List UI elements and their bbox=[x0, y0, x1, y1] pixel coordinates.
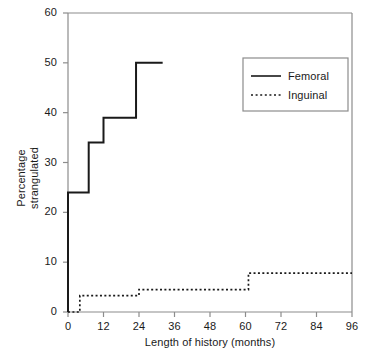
x-tick-label: 36 bbox=[163, 320, 187, 332]
series-line-inguinal bbox=[68, 273, 352, 312]
x-axis-title: Length of history (months) bbox=[68, 336, 352, 348]
y-axis-title: Percentage strangulated bbox=[10, 118, 44, 238]
legend-box bbox=[243, 58, 348, 111]
series-line-femoral bbox=[68, 63, 163, 312]
y-tick-label: 40 bbox=[35, 106, 57, 118]
x-tick-label: 96 bbox=[340, 320, 364, 332]
x-tick-label: 60 bbox=[234, 320, 258, 332]
y-tick-label: 30 bbox=[35, 156, 57, 168]
y-tick-label: 0 bbox=[35, 305, 57, 317]
y-tick-label: 20 bbox=[35, 205, 57, 217]
x-tick-label: 48 bbox=[198, 320, 222, 332]
x-axis-ticks bbox=[68, 312, 352, 317]
y-tick-label: 10 bbox=[35, 255, 57, 267]
x-tick-label: 72 bbox=[269, 320, 293, 332]
legend-label-femoral: Femoral bbox=[288, 70, 329, 82]
legend-label-inguinal: Inguinal bbox=[288, 89, 327, 101]
x-tick-label: 24 bbox=[127, 320, 151, 332]
y-tick-label: 60 bbox=[35, 6, 57, 18]
y-tick-label: 50 bbox=[35, 56, 57, 68]
x-tick-label: 84 bbox=[305, 320, 329, 332]
y-axis-title-line1: Percentage bbox=[15, 147, 28, 209]
x-tick-label: 12 bbox=[92, 320, 116, 332]
x-tick-label: 0 bbox=[56, 320, 80, 332]
chart-plot-area bbox=[0, 0, 366, 357]
chart-figure: Femoral Inguinal Percentage strangulated… bbox=[0, 0, 366, 357]
legend-frame bbox=[243, 58, 348, 111]
